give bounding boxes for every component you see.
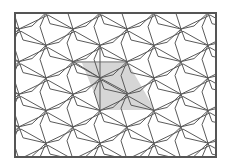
tile-edge — [73, 0, 100, 13]
tile-edge — [154, 0, 181, 13]
tile-edge — [208, 162, 229, 165]
tile-edge — [0, 80, 19, 94]
tile-edge — [0, 162, 46, 165]
tile-edge — [208, 94, 229, 110]
tile-edge — [208, 129, 229, 143]
tile-edge — [121, 0, 127, 29]
tile-edge — [67, 0, 73, 29]
tile-edge — [208, 64, 229, 78]
tile-edge — [154, 0, 208, 13]
tile-edge — [67, 159, 73, 165]
tile-edge — [208, 0, 229, 13]
tile-edge — [181, 0, 208, 13]
tile-edge — [0, 159, 19, 165]
tile-edge — [100, 159, 127, 165]
tile-edge — [46, 0, 73, 13]
tile-edge — [208, 31, 229, 45]
tile-edge — [0, 113, 19, 127]
tile-edge — [202, 0, 208, 13]
tile-edge — [154, 159, 181, 165]
tile-edge — [208, 62, 229, 78]
tile-edge — [127, 0, 154, 13]
tile-edge — [46, 159, 73, 165]
tile-edge — [19, 0, 46, 13]
tile-edge — [40, 0, 46, 13]
tile-edge — [0, 15, 19, 29]
tile-edge — [94, 0, 100, 13]
tile-edge — [175, 159, 181, 165]
tile-edge — [46, 0, 100, 13]
tile-edge — [208, 97, 229, 111]
tile-edge — [0, 0, 46, 13]
tile-edge — [0, 0, 19, 13]
tile-edge — [0, 48, 19, 62]
tile-edge — [175, 0, 181, 29]
tile-edge — [0, 29, 19, 45]
tile-edge — [0, 94, 19, 110]
tile-edge — [19, 159, 46, 165]
tile-edge — [181, 159, 208, 165]
tile-edge — [0, 62, 19, 78]
tile-edge — [154, 162, 208, 165]
tile-edge — [0, 127, 19, 143]
tile-edge — [13, 159, 19, 165]
tiling-diagram — [0, 0, 229, 165]
tile-edge — [100, 162, 154, 165]
tile-edge — [73, 159, 100, 165]
tile-edge — [208, 159, 229, 165]
tile-edge — [46, 162, 100, 165]
tile-edge — [100, 0, 127, 13]
tile-edge — [208, 0, 229, 13]
tile-edge — [127, 159, 154, 165]
tiling-figure — [0, 0, 229, 165]
tile-edge — [148, 0, 154, 13]
tile-edge — [208, 127, 229, 143]
tile-edge — [100, 0, 154, 13]
tile-edge — [121, 159, 127, 165]
tile-edge — [208, 29, 229, 45]
